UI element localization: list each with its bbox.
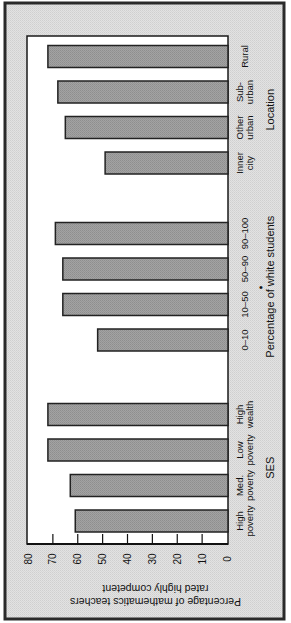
group-label-0: SES [264,457,276,479]
tick-label-text: 0 [222,556,233,562]
category-label-1-1: 10–50 [239,291,250,317]
bar-high-wealth [48,404,228,426]
category-label-0-0-line: poverty [244,505,255,536]
group-label-2-line: Location [264,89,276,131]
tick-label-70: 70 [47,553,58,565]
category-label-2-3: Rural [239,45,250,68]
tick-label-40: 40 [122,553,133,565]
category-label-2-2: Sub-urban [234,80,255,104]
tick-label-text: 60 [72,553,83,565]
tick-label-text: 10 [197,553,208,565]
group-label-2: Location [264,89,276,131]
category-label-0-3-line: wealth [244,401,255,429]
group-label-1: Percentage of white students [264,215,276,357]
bar-10-50 [63,294,228,316]
plot-area [27,36,228,544]
category-label-1-3-line: 90–100 [239,218,250,250]
category-label-0-3: Highwealth [234,401,255,429]
tick-label-text: 40 [122,553,133,565]
bar-low-poverty [48,439,228,461]
bar-rural [48,46,228,68]
category-label-0-2-line: poverty [244,434,255,465]
bar-med-poverty [70,475,228,497]
tick-label-text: 70 [47,553,58,565]
chart: HighpovertyMed.povertyLowpovertyHighweal… [0,0,291,623]
category-label-1-1-line: 10–50 [239,291,250,317]
bar-90-100 [55,223,228,245]
tick-label-30: 30 [147,553,158,565]
tick-label-60: 60 [72,553,83,565]
tick-label-text: 30 [147,553,158,565]
tick-label-text: 20 [172,553,183,565]
bar-0-10 [98,329,228,351]
category-label-1-0: 0–10 [239,329,250,350]
category-label-2-0-line: city [244,156,255,171]
category-label-1-0-line: 0–10 [239,329,250,350]
bar-inner-city [105,152,228,174]
tick-label-20: 20 [172,553,183,565]
category-label-1-2-line: 50–90 [239,256,250,282]
y-axis-title-line-2: rated highly competent [102,583,208,595]
tick-label-text: 50 [97,553,108,565]
category-label-2-1: Otherurban [234,115,255,139]
group-marker-1: • [259,281,263,293]
tick-label-0: 0 [222,556,233,562]
bar-sub-urban [58,81,228,103]
group-label-0-line: SES [264,457,276,479]
tick-label-80: 80 [23,553,34,565]
category-label-1-2: 50–90 [239,256,250,282]
category-label-2-1-line: urban [244,115,255,139]
bar-high-poverty [75,510,228,532]
category-label-2-3-line: Rural [239,45,250,68]
category-label-2-2-line: urban [244,80,255,104]
tick-label-50: 50 [97,553,108,565]
category-label-0-1-line: poverty [244,470,255,501]
tick-label-10: 10 [197,553,208,565]
category-label-1-3: 90–100 [239,218,250,250]
group-label-1-line: Percentage of white students [264,215,276,357]
bar-other-urban [65,117,228,139]
tick-label-text: 80 [23,553,34,565]
y-axis-title-line-1: Percentage of mathematics teachers [70,596,241,608]
bar-50-90 [63,258,228,280]
